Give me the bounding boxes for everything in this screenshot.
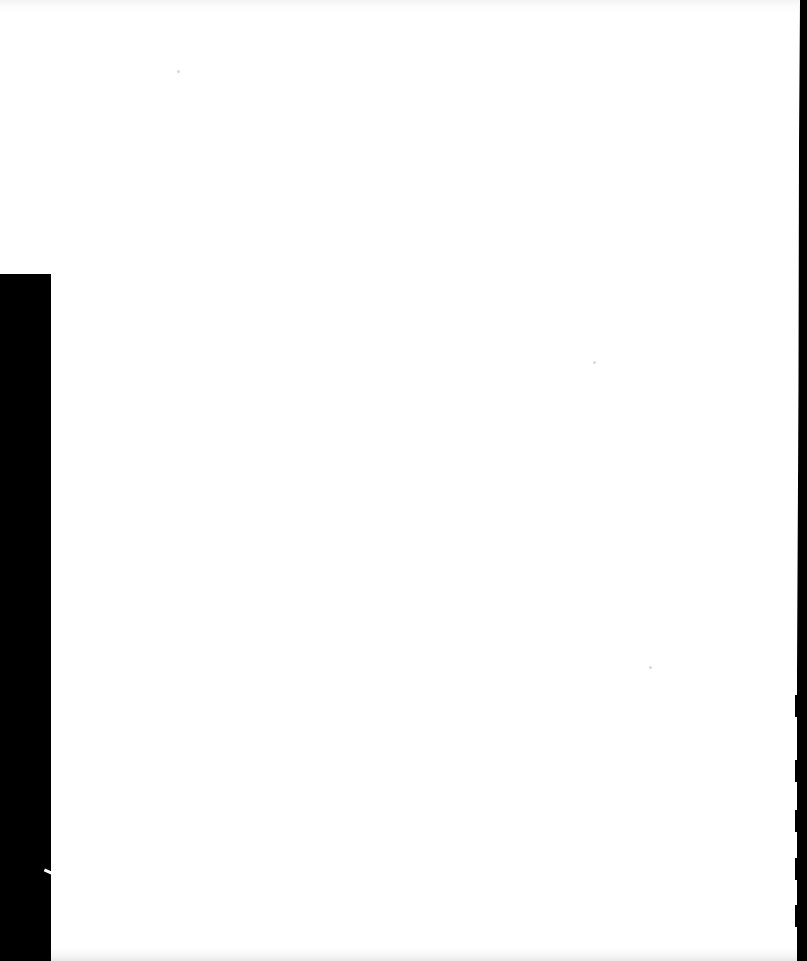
scan-edge-tab	[795, 760, 807, 782]
dust-speck	[593, 361, 596, 364]
scan-edge-tab	[795, 858, 807, 880]
scanned-document	[0, 0, 807, 961]
scan-edge-tab	[795, 695, 807, 717]
dust-speck	[177, 70, 180, 73]
scan-edge-tab	[795, 810, 807, 832]
blank-page	[0, 0, 807, 961]
dust-speck	[649, 666, 652, 669]
scan-border-left	[0, 274, 51, 961]
scan-edge-tab	[795, 905, 807, 927]
